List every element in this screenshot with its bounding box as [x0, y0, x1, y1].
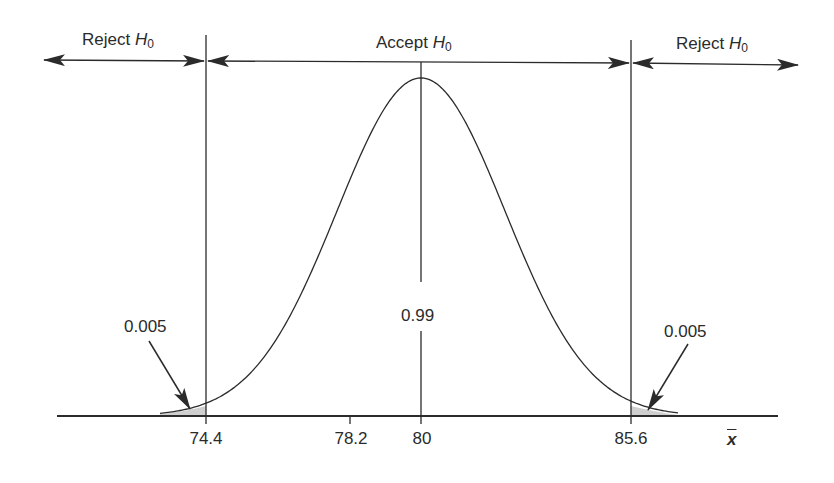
- right-tail-shade: [631, 406, 678, 416]
- h-symbol: H: [433, 33, 445, 52]
- tick-label-80: 80: [413, 429, 432, 449]
- tick-label-74-4: 74.4: [189, 429, 222, 449]
- tick-label-78-2: 78.2: [334, 429, 367, 449]
- reject-left-arrow: [44, 60, 204, 61]
- reject-left-text: Reject: [82, 30, 130, 49]
- h-subscript: 0: [147, 37, 154, 51]
- right-tail-pointer: [648, 344, 688, 410]
- h-symbol: H: [729, 34, 741, 53]
- normal-curve: [160, 78, 678, 413]
- left-tail-shade: [160, 406, 206, 416]
- reject-right-label: Reject H0: [676, 34, 748, 55]
- accept-text: Accept: [376, 33, 428, 52]
- tick-label-85-6: 85.6: [614, 429, 647, 449]
- accept-label: Accept H0: [376, 33, 452, 54]
- center-area: 0.99: [401, 306, 434, 326]
- left-tail-area: 0.005: [124, 317, 167, 337]
- accept-arrow: [208, 61, 629, 63]
- right-tail-area: 0.005: [664, 322, 707, 342]
- reject-right-text: Reject: [676, 34, 724, 53]
- reject-right-arrow: [633, 63, 798, 65]
- h-symbol: H: [135, 30, 147, 49]
- x-axis-label: x: [727, 430, 736, 450]
- reject-left-label: Reject H0: [82, 30, 154, 51]
- left-tail-pointer: [149, 341, 190, 409]
- distribution-diagram: [0, 0, 834, 483]
- h-subscript: 0: [741, 41, 748, 55]
- h-subscript: 0: [445, 40, 452, 54]
